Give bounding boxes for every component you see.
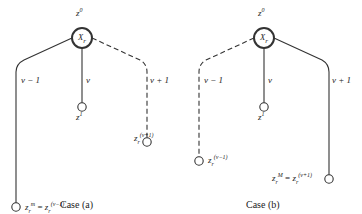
- leaf-label-b-nu-minus-1: zr(ν−1): [208, 156, 228, 165]
- leaf-label-b-z1: z1: [258, 113, 265, 122]
- leaf-node-b-nu-plus-1: [325, 175, 333, 183]
- leaf-node-a-z1: [78, 103, 86, 111]
- leaf-node-b-z1: [260, 103, 268, 111]
- branch-label-b-nu: ν: [268, 76, 272, 85]
- branch-label-a-nu: ν: [86, 76, 90, 85]
- root-inner-label-b: Xr: [254, 32, 274, 45]
- root-label-a: z0: [76, 9, 83, 18]
- leaf-label-a-nu-minus-1: zrm = zr(ν−1): [25, 203, 64, 212]
- edge-b-nu-plus-1: [274, 38, 329, 175]
- caption-case-b: Case (b): [246, 199, 280, 210]
- leaf-label-a-nu-plus-1: zr(ν+1): [134, 134, 154, 143]
- caption-case-a: Case (a): [60, 199, 93, 210]
- leaf-node-a-nu-minus-1: [12, 203, 20, 211]
- leaf-label-a-z1: z1: [76, 113, 83, 122]
- leaf-node-b-nu-minus-1: [195, 157, 203, 165]
- edge-a-nu-plus-1: [92, 38, 147, 138]
- branch-label-a-nu-plus-1: ν + 1: [150, 76, 169, 85]
- root-inner-label-a: Xr: [72, 32, 92, 45]
- branch-label-b-nu-minus-1: ν − 1: [204, 76, 223, 85]
- branch-label-b-nu-plus-1: ν + 1: [332, 76, 351, 85]
- edge-a-nu-minus-1: [16, 38, 72, 203]
- root-label-b: z0: [258, 9, 265, 18]
- leaf-label-b-nu-plus-1: zrM = zr(ν+1): [272, 174, 312, 183]
- edge-b-nu-minus-1: [199, 38, 254, 157]
- branch-label-a-nu-minus-1: ν − 1: [21, 76, 40, 85]
